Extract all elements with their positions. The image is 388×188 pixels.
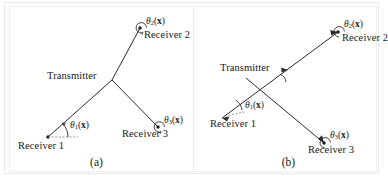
transmitter-label-a: Transmitter: [47, 71, 97, 82]
rx2-node-dot: [138, 26, 141, 29]
rx2-angle-label-b: θ2(x): [344, 20, 363, 30]
receiver-1-label-b: Receiver 1: [210, 119, 256, 130]
rx1-angle-label-a: θ1(x): [70, 121, 89, 131]
link-tx-rx3: [112, 80, 158, 127]
rx2-angle-label-a: θ2(x): [146, 17, 165, 27]
paren-close: ): [180, 115, 183, 125]
panel-a: Transmitter θ2(x) Receiver 2 θ1(x) Recei…: [0, 0, 193, 188]
rx1-angle-label-b: θ1(x): [245, 101, 264, 111]
paren-close: ): [162, 16, 165, 26]
caption-a: (a): [0, 156, 193, 168]
link-tx-rx2: [112, 28, 140, 80]
rx2-node-dot-b: [336, 30, 339, 33]
receiver-3-label-b: Receiver 3: [308, 145, 354, 156]
bearing-line-1: [222, 32, 338, 118]
panel-b: Transmitter θ2(x) Receiver 2 θ1(x) Recei…: [192, 0, 385, 188]
rx3-angle-label-b: θ3(x): [330, 131, 349, 141]
paren-close: ): [346, 130, 349, 140]
paren-close: ): [261, 100, 264, 110]
receiver-2-label-a: Receiver 2: [144, 30, 190, 41]
paren-close: ): [360, 19, 363, 29]
rx3-angle-label-a: θ3(x): [164, 116, 183, 126]
paren-close: ): [86, 120, 89, 130]
crossing-angle-arc: [281, 75, 287, 83]
caption-b: (b): [192, 156, 385, 168]
receiver-2-label-b: Receiver 2: [342, 33, 388, 44]
receiver-3-label-a: Receiver 3: [122, 129, 168, 140]
rx2-arc-arrowhead: [141, 32, 143, 34]
transmitter-label-b: Transmitter: [220, 63, 270, 74]
receiver-1-label-a: Receiver 1: [18, 141, 64, 152]
